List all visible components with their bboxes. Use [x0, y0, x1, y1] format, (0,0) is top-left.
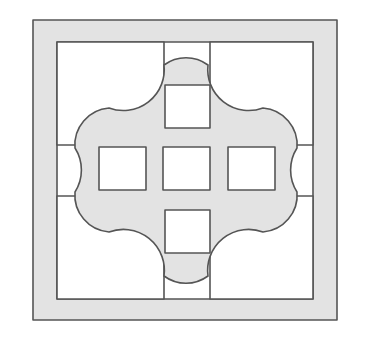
figure-canvas: Geometric quatrefoil tile pattern Square…: [0, 0, 368, 355]
hole-right: [228, 147, 275, 190]
hole-center: [163, 147, 210, 190]
hole-bottom: [165, 210, 210, 253]
quatrefoil-tile-figure: Geometric quatrefoil tile pattern Square…: [0, 0, 368, 355]
hole-top: [165, 85, 210, 128]
hole-left: [99, 147, 146, 190]
